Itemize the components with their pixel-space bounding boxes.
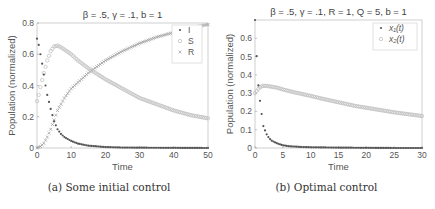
x-tick-label: 0 bbox=[253, 150, 258, 160]
x-tick-label: 10 bbox=[66, 150, 76, 160]
x-axis-label: Time bbox=[112, 161, 133, 172]
chart-title: β = .5, γ = .1, R = 1, Q = 5, b = 1 bbox=[270, 6, 407, 17]
x-tick-label: 20 bbox=[101, 150, 111, 160]
y-tick-label: 0.2 bbox=[22, 112, 34, 122]
y-tick-label: 0.5 bbox=[240, 52, 252, 62]
legend: ISR bbox=[172, 25, 202, 63]
y-tick-label: 0.1 bbox=[240, 125, 252, 135]
caption-a: (a) Some initial control bbox=[0, 181, 218, 193]
x-tick-label: 50 bbox=[203, 150, 213, 160]
y-tick-label: 0.4 bbox=[240, 70, 252, 80]
y-tick-label: 0.3 bbox=[240, 88, 252, 98]
y-tick-label: 0.6 bbox=[22, 49, 34, 59]
x-tick-label: 20 bbox=[362, 150, 372, 160]
y-tick-label: 0.6 bbox=[240, 33, 252, 43]
x-tick-label: 15 bbox=[334, 150, 344, 160]
y-tick-label: 0.8 bbox=[22, 18, 34, 28]
legend-entry: x₂(t) bbox=[388, 34, 405, 44]
caption-b: (b) Optimal control bbox=[218, 181, 435, 193]
chart-title: β = .5, γ = .1, b = 1 bbox=[83, 9, 163, 20]
x-tick-label: 0 bbox=[35, 150, 40, 160]
x-axis-label: Time bbox=[328, 161, 349, 172]
legend-entry: S bbox=[188, 36, 194, 46]
x-tick-label: 40 bbox=[169, 150, 179, 160]
y-tick-label: 0.2 bbox=[240, 106, 252, 116]
y-axis-label: Population (normalized) bbox=[6, 35, 17, 135]
chart-a-plot: β = .5, γ = .1, b = 10102030405000.20.40… bbox=[0, 0, 218, 180]
x-tick-label: 25 bbox=[389, 150, 399, 160]
y-axis-label: Population (normalized) bbox=[224, 34, 235, 134]
x-tick-label: 5 bbox=[280, 150, 285, 160]
legend-entry: I bbox=[188, 25, 190, 35]
x-tick-label: 10 bbox=[306, 150, 316, 160]
x-tick-label: 30 bbox=[135, 150, 145, 160]
legend-entry: R bbox=[188, 47, 194, 57]
chart-panel-a: β = .5, γ = .1, b = 10102030405000.20.40… bbox=[0, 0, 218, 209]
chart-panel-b: β = .5, γ = .1, R = 1, Q = 5, b = 105101… bbox=[218, 0, 435, 209]
chart-b-plot: β = .5, γ = .1, R = 1, Q = 5, b = 105101… bbox=[218, 0, 435, 180]
x-tick-label: 30 bbox=[417, 150, 427, 160]
y-tick-label: 0 bbox=[247, 143, 252, 153]
legend: x₁(t)x₂(t) bbox=[373, 23, 417, 50]
y-tick-label: 0 bbox=[29, 143, 34, 153]
legend-entry: x₁(t) bbox=[388, 23, 404, 33]
y-tick-label: 0.4 bbox=[22, 81, 34, 91]
